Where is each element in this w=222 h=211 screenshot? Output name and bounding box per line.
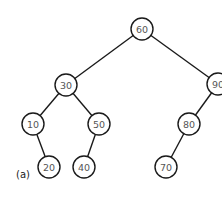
tree-node-90: 90 — [207, 73, 222, 95]
node-label: 30 — [60, 80, 72, 91]
tree-node-60: 60 — [131, 18, 153, 40]
tree-node-30: 30 — [55, 74, 77, 96]
node-label: 40 — [78, 162, 90, 173]
tree-nodes: 603090105080204070 — [22, 18, 222, 178]
node-label: 80 — [183, 119, 195, 130]
tree-node-40: 40 — [73, 156, 95, 178]
tree-node-70: 70 — [155, 156, 177, 178]
node-label: 60 — [136, 24, 148, 35]
tree-node-80: 80 — [178, 113, 200, 135]
node-label: 90 — [212, 79, 222, 90]
binary-tree-diagram: 603090105080204070 (a) — [0, 0, 222, 211]
node-label: 50 — [93, 119, 105, 130]
node-label: 20 — [43, 162, 55, 173]
node-label: 10 — [27, 119, 39, 130]
node-label: 70 — [160, 162, 172, 173]
tree-edge-60-30 — [66, 29, 142, 85]
tree-node-20: 20 — [38, 156, 60, 178]
tree-edge-60-90 — [142, 29, 218, 84]
tree-node-50: 50 — [88, 113, 110, 135]
tree-edges — [33, 29, 218, 167]
tree-node-10: 10 — [22, 113, 44, 135]
figure-caption: (a) — [16, 169, 30, 180]
